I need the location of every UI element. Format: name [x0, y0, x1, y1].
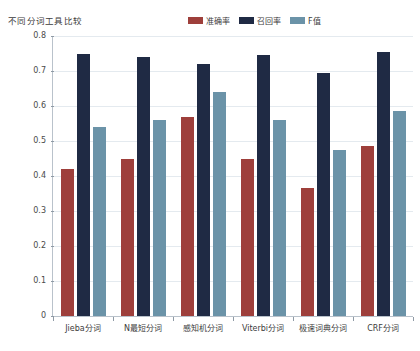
y-axis-tick-mark	[51, 36, 54, 37]
x-axis-tick-label: CRF分词	[367, 322, 399, 333]
legend-label: 准确率	[206, 15, 230, 26]
x-axis-tick-label: N最短分词	[124, 322, 162, 333]
legend-swatch-icon	[188, 17, 203, 24]
bar[interactable]	[361, 146, 374, 316]
y-axis-tick-label: 0.6	[33, 101, 46, 110]
bar[interactable]	[273, 120, 286, 316]
y-axis-tick-mark	[51, 106, 54, 107]
y-axis-tick-mark	[51, 71, 54, 72]
y-axis-tick-labels: 00.10.20.30.40.50.60.70.8	[0, 36, 46, 316]
legend-item[interactable]: 准确率	[188, 15, 230, 26]
bar[interactable]	[241, 159, 254, 317]
bar[interactable]	[121, 159, 134, 317]
x-axis-tick-label: Viterbi分词	[242, 322, 284, 333]
x-axis-tick-mark	[293, 317, 294, 321]
legend-item[interactable]: 召回率	[239, 15, 281, 26]
y-axis-tick-label: 0.7	[33, 66, 46, 75]
bar[interactable]	[77, 54, 90, 317]
bar[interactable]	[317, 73, 330, 316]
x-axis-tick-mark	[113, 317, 114, 321]
y-axis-tick-label: 0.2	[33, 241, 46, 250]
x-axis-tick-mark	[233, 317, 234, 321]
bar[interactable]	[301, 188, 314, 316]
y-axis-tick-label: 0.3	[33, 206, 46, 215]
x-axis-tick-mark	[53, 317, 54, 321]
legend-swatch-icon	[290, 17, 305, 24]
y-axis-tick-mark	[51, 316, 54, 317]
bar[interactable]	[93, 127, 106, 316]
bar[interactable]	[197, 64, 210, 316]
x-axis-tick-label: 感知机分词	[183, 322, 223, 333]
bar[interactable]	[377, 52, 390, 316]
bar[interactable]	[137, 57, 150, 316]
bar[interactable]	[181, 117, 194, 317]
x-axis-tick-mark	[353, 317, 354, 321]
y-axis-tick-mark	[51, 176, 54, 177]
y-axis-tick-label: 0.5	[33, 136, 46, 145]
y-axis-tick-mark	[51, 246, 54, 247]
y-axis-tick-mark	[51, 281, 54, 282]
x-axis-tick-label: 极速词典分词	[299, 322, 347, 333]
chart-legend: 准确率召回率F值	[188, 15, 321, 26]
y-axis-tick-mark	[51, 211, 54, 212]
bar[interactable]	[333, 150, 346, 316]
y-axis-tick-label: 0	[41, 311, 46, 320]
bar[interactable]	[213, 92, 226, 316]
y-axis-tick-mark	[51, 141, 54, 142]
y-axis-tick-label: 0.4	[33, 171, 46, 180]
x-axis-tick-label: Jieba分词	[65, 322, 100, 333]
bar[interactable]	[257, 55, 270, 316]
legend-swatch-icon	[239, 17, 254, 24]
legend-label: F值	[308, 15, 321, 26]
y-axis-tick-label: 0.8	[33, 31, 46, 40]
bar[interactable]	[393, 111, 406, 316]
legend-label: 召回率	[257, 15, 281, 26]
bars-layer	[53, 36, 412, 316]
bar-chart: 不同分词工具比较 准确率召回率F值 00.10.20.30.40.50.60.7…	[0, 0, 420, 351]
x-axis-tick-mark	[413, 317, 414, 321]
x-axis-tick-mark	[173, 317, 174, 321]
legend-item[interactable]: F值	[290, 15, 321, 26]
bar[interactable]	[153, 120, 166, 316]
bar[interactable]	[61, 169, 74, 316]
chart-title: 不同分词工具比较	[8, 14, 82, 26]
y-axis-tick-label: 0.1	[33, 276, 46, 285]
